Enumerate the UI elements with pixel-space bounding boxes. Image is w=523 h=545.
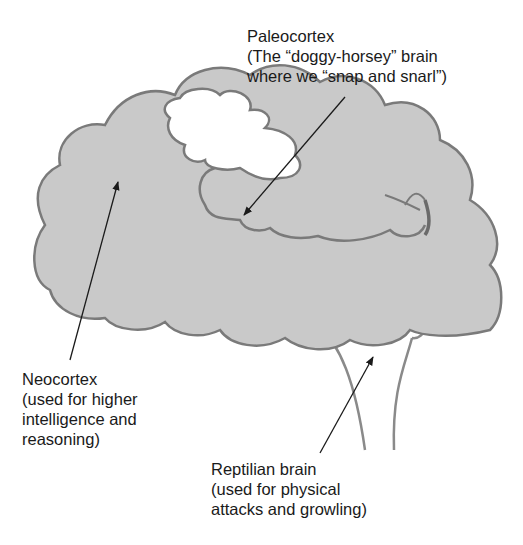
reptilian-desc-2: attacks and growling) xyxy=(211,499,367,519)
neocortex-title: Neocortex xyxy=(22,369,138,389)
paleocortex-desc-1: (The “doggy-horsey” brain xyxy=(247,46,447,66)
reptilian-desc-1: (used for physical xyxy=(211,479,367,499)
paleocortex-desc-2: where we “snap and snarl”) xyxy=(247,66,447,86)
paleocortex-title: Paleocortex xyxy=(247,26,447,46)
neocortex-desc-2: intelligence and xyxy=(22,409,138,429)
paleocortex-label: Paleocortex (The “doggy-horsey” brain wh… xyxy=(247,26,447,86)
neocortex-desc-3: reasoning) xyxy=(22,429,138,449)
reptilian-title: Reptilian brain xyxy=(211,459,367,479)
neocortex-label: Neocortex (used for higher intelligence … xyxy=(22,369,138,449)
neocortex-shape xyxy=(34,65,501,349)
reptilian-label: Reptilian brain (used for physical attac… xyxy=(211,459,367,519)
neocortex-desc-1: (used for higher xyxy=(22,389,138,409)
